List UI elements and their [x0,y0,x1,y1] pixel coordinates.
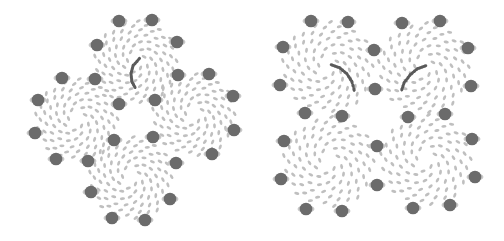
small-cell [298,145,301,150]
small-cell [103,63,108,69]
small-cell [405,39,410,45]
small-cell [119,190,124,193]
small-cell [435,70,439,76]
small-cell [421,37,427,42]
small-cell [67,96,72,102]
small-cell [449,123,454,126]
small-cell [336,25,342,29]
small-cell [125,81,131,84]
ring-dot [334,205,351,218]
small-cell [340,146,346,150]
small-cell [326,131,332,136]
small-cell [210,139,215,145]
small-cell [424,192,430,197]
small-cell [169,141,175,144]
small-cell [347,67,352,73]
small-cell [73,136,79,141]
small-cell [161,189,164,195]
small-cell [343,32,348,35]
small-cell [322,76,328,80]
ring-dot [369,179,386,192]
small-cell [349,47,355,52]
small-cell [416,54,421,60]
small-cell [438,136,443,139]
cluster-bottom-right [379,112,474,206]
ring-dot [54,72,71,85]
ring-dot [298,203,315,216]
small-cell [418,77,424,81]
small-cell [211,103,217,108]
small-cell [450,85,453,90]
small-cell [193,72,199,77]
small-cell [88,169,93,175]
small-cell [123,92,129,96]
small-cell [350,142,356,147]
small-cell [432,37,438,41]
small-cell [309,38,314,44]
small-cell [133,156,139,160]
small-cell [208,83,213,86]
small-cell [406,31,411,37]
small-cell [53,95,57,101]
small-cell [92,151,97,157]
square-arrangement-panel [272,15,484,218]
small-cell [102,109,108,115]
small-cell [78,141,84,146]
small-cell [361,66,366,72]
small-cell [170,90,174,96]
small-cell [323,46,329,51]
small-cell [403,105,408,108]
small-cell [292,35,296,41]
ring-dot [204,148,221,161]
small-cell [106,204,112,207]
small-cell [108,72,114,77]
small-cell [290,87,296,92]
small-cell [401,150,405,156]
small-cell [111,88,117,91]
small-cell [133,181,138,187]
small-cell [298,174,304,179]
small-cell [445,48,451,53]
small-cell [347,189,352,195]
small-cell [319,127,325,133]
small-cell [355,91,359,97]
small-cell [428,122,434,127]
small-cell [76,77,82,82]
small-cell [325,36,331,41]
small-cell [120,174,124,180]
small-cell [111,195,117,199]
small-cell [95,101,101,106]
small-cell [111,176,116,182]
small-cell [380,166,386,172]
small-cell [338,179,343,185]
small-cell [363,39,369,44]
small-cell [97,59,102,65]
small-cell [318,136,323,142]
small-cell [108,47,111,52]
small-cell [395,172,401,177]
small-cell [211,89,217,93]
small-cell [432,152,438,157]
small-cell [69,107,74,113]
small-cell [82,112,88,117]
diagram-canvas [0,0,504,241]
small-cell [219,104,225,110]
small-cell [192,144,198,149]
small-cell [64,150,70,154]
small-cell [290,56,294,62]
small-cell [57,118,62,124]
small-cell [390,44,393,49]
small-cell [190,131,196,136]
small-cell [88,128,92,134]
small-cell [417,106,423,111]
small-cell [204,116,208,122]
small-cell [204,100,210,104]
small-cell [399,189,405,192]
small-cell [113,202,118,205]
small-cell [453,47,459,52]
small-cell [420,86,426,91]
small-cell [320,53,325,59]
small-cell [105,181,111,187]
small-cell [455,139,461,144]
small-cell [195,136,201,141]
